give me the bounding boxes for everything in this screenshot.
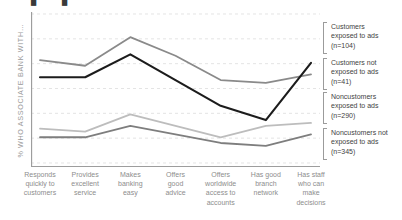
legend-item-line: (n=104) (331, 41, 402, 50)
legend-item-line: Customers (331, 22, 402, 31)
line-chart-svg (31, 12, 320, 167)
plot-area (31, 12, 320, 167)
x-axis-label: Has goodbranchnetwork (243, 170, 289, 198)
x-axis-label: Has staffwho canmakedecisions (288, 170, 334, 207)
legend-item[interactable]: Customersexposed to ads(n=104) (323, 22, 402, 50)
x-axis-label-line: Has staff (288, 170, 334, 179)
legend-item[interactable]: Noncustomers notexposed to ads(n=345) (323, 128, 402, 156)
legend-item-line: Noncustomers (331, 92, 402, 101)
legend-item-line: (n=41) (331, 77, 402, 86)
legend-item-line: (n=290) (331, 111, 402, 120)
x-axis-label: Offersgoodadvice (153, 170, 199, 198)
top-clipped-artifact-text: ▮ ▮ (30, 0, 90, 6)
legend-item-line: Customers not (331, 58, 402, 67)
series-line-3 (40, 126, 311, 146)
x-axis-label: Offersworldwideaccess toaccounts (198, 170, 244, 207)
x-axis-label-line: decisions (288, 198, 334, 207)
legend-item[interactable]: Customers notexposed to ads(n=41) (323, 58, 402, 86)
chart-legend: Customersexposed to ads(n=104)Customers … (323, 22, 402, 162)
x-axis-label-line: service (62, 188, 108, 197)
x-axis-label-line: branch (243, 179, 289, 188)
x-axis-label-line: Makes (107, 170, 153, 179)
y-axis-label: % WHO ASSOCIATE BANK WITH… (16, 5, 25, 177)
x-axis-label-line: Has good (243, 170, 289, 179)
chart-root: ▮ ▮ % WHO ASSOCIATE BANK WITH… Respondsq… (0, 0, 402, 220)
legend-item[interactable]: Noncustomersexposed to ads(n=290) (323, 92, 402, 120)
x-axis-label-line: Responds (17, 170, 63, 179)
series-line-0 (40, 37, 311, 83)
x-axis-label-line: make (288, 188, 334, 197)
legend-item-line: exposed to ads (331, 67, 402, 76)
x-axis-label-line: access to (198, 188, 244, 197)
x-axis-label-line: customers (17, 188, 63, 197)
top-clipped-artifact: ▮ ▮ (30, 0, 90, 8)
legend-item-line: exposed to ads (331, 137, 402, 146)
legend-item-line: Noncustomers not (331, 128, 402, 137)
legend-item-line: exposed to ads (331, 101, 402, 110)
series-line-1 (40, 54, 311, 120)
x-axis-label-line: Provides (62, 170, 108, 179)
x-axis-label-line: Offers (153, 170, 199, 179)
x-axis-label-line: worldwide (198, 179, 244, 188)
x-axis-label: Providesexcellentservice (62, 170, 108, 198)
x-axis-label: Respondsquickly tocustomers (17, 170, 63, 198)
x-axis-label-line: accounts (198, 198, 244, 207)
legend-item-line: exposed to ads (331, 31, 402, 40)
x-axis-label-line: easy (107, 188, 153, 197)
x-axis-label-line: banking (107, 179, 153, 188)
x-axis-label-line: quickly to (17, 179, 63, 188)
x-axis-labels: Respondsquickly tocustomersProvidesexcel… (31, 170, 320, 218)
x-axis-label-line: Offers (198, 170, 244, 179)
x-axis-label-line: excellent (62, 179, 108, 188)
x-axis-label-line: who can (288, 179, 334, 188)
x-axis-label-line: good (153, 179, 199, 188)
legend-item-line: (n=345) (331, 147, 402, 156)
x-axis-label-line: advice (153, 188, 199, 197)
x-axis-label: Makesbankingeasy (107, 170, 153, 198)
x-axis-label-line: network (243, 188, 289, 197)
